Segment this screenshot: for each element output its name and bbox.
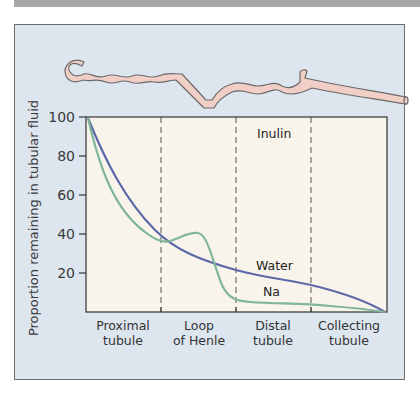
cat-collecting-line2: tubule bbox=[329, 333, 369, 348]
inulin-label: Inulin bbox=[257, 126, 291, 141]
chart-svg: 100 80 60 40 20 Proportion remaining in … bbox=[0, 0, 420, 398]
cat-loop-line2: of Henle bbox=[173, 333, 226, 348]
y-ticks bbox=[79, 117, 86, 273]
cat-distal-line1: Distal bbox=[255, 318, 291, 333]
y-tick-100: 100 bbox=[48, 109, 75, 125]
na-label: Na bbox=[263, 284, 280, 299]
cat-loop-line1: Loop bbox=[184, 318, 214, 333]
cat-distal-line2: tubule bbox=[253, 333, 293, 348]
y-axis-label: Proportion remaining in tubular fluid bbox=[26, 100, 41, 336]
cat-proximal-line2: tubule bbox=[103, 333, 143, 348]
nephron-illustration bbox=[65, 60, 408, 108]
y-tick-40: 40 bbox=[57, 226, 75, 242]
cat-proximal-line1: Proximal bbox=[96, 318, 150, 333]
x-category-labels: Proximal tubule Loop of Henle Distal tub… bbox=[96, 318, 380, 348]
cat-collecting-line1: Collecting bbox=[318, 318, 380, 333]
water-label: Water bbox=[256, 258, 294, 273]
y-tick-80: 80 bbox=[57, 148, 75, 164]
y-tick-20: 20 bbox=[57, 265, 75, 281]
y-tick-60: 60 bbox=[57, 187, 75, 203]
